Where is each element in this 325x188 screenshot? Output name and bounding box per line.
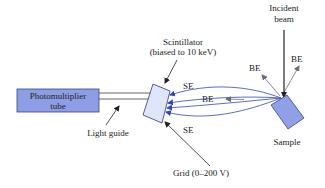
be-label-mid: BE: [202, 94, 214, 104]
grid-label: Grid (0–200 V): [173, 168, 229, 178]
light-guide-pointer-arrow: [106, 106, 119, 125]
pmt-label-line2: tube: [50, 101, 66, 111]
sample-label: Sample: [274, 137, 301, 147]
scintillator-pointer-arrow: [165, 60, 177, 83]
scintillator-label-line1: Scintillator: [163, 37, 203, 47]
be-left-label: BE: [249, 63, 261, 73]
se-label-bottom: SE: [183, 125, 194, 135]
se-path-mid: [167, 98, 281, 108]
scintillator: Scintillator (biased to 10 keV): [143, 37, 216, 123]
incident-beam: Incident beam: [269, 3, 299, 97]
scintillator-label-line2: (biased to 10 keV): [150, 47, 217, 57]
pmt-label-line1: Photomultiplier: [30, 91, 87, 101]
grid: Grid (0–200 V): [165, 122, 229, 178]
light-guide-label: Light guide: [87, 128, 129, 138]
be-right-label: BE: [291, 54, 303, 64]
photomultiplier-tube: Photomultiplier tube: [17, 89, 99, 112]
detector-diagram: Photomultiplier tube Light guide Scintil…: [0, 0, 325, 188]
electron-paths: [166, 87, 281, 116]
incident-beam-label-line2: beam: [274, 14, 294, 24]
incident-beam-label-line1: Incident: [269, 3, 299, 13]
sample: Sample: [271, 95, 304, 147]
se-label-top: SE: [183, 81, 194, 91]
be-mid-arrow: [226, 99, 244, 100]
